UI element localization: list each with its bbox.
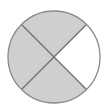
fraction-diagram: 3/4	[0, 0, 111, 110]
fraction-circle	[0, 0, 111, 110]
